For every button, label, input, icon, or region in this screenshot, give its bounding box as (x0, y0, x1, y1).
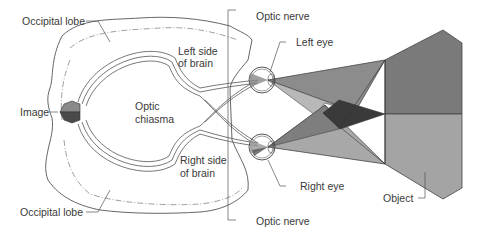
label-left-eye: Left eye (296, 36, 333, 48)
label-left-side-line1: Left side (178, 45, 218, 57)
label-image: Image (20, 106, 49, 118)
label-left-side-line2: of brain (178, 57, 213, 69)
label-right-side-line2: of brain (180, 167, 215, 179)
label-optic-chiasma-line2: chiasma (135, 113, 174, 125)
label-optic-nerve-bottom: Optic nerve (256, 215, 310, 227)
label-right-eye: Right eye (300, 180, 344, 192)
image-hexagon (60, 101, 80, 123)
label-occipital-lobe-top: Occipital lobe (22, 15, 85, 27)
label-optic-nerve-top: Optic nerve (256, 10, 310, 22)
label-optic-chiasma-line1: Optic (135, 100, 160, 112)
label-right-side-line1: Right side (180, 154, 227, 166)
label-object: Object (383, 192, 413, 204)
vision-cones (268, 60, 385, 164)
label-occipital-lobe-bottom: Occipital lobe (20, 206, 83, 218)
